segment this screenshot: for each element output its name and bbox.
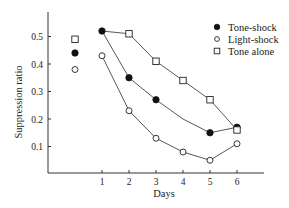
data-point-tone-alone	[234, 127, 240, 133]
open-circle-icon	[215, 37, 220, 42]
legend-label: Tone-shock	[228, 22, 278, 33]
axes: 0.10.20.30.40.5123456DaysSuppression rat…	[13, 12, 264, 199]
y-tick-label: 0.1	[31, 142, 43, 152]
baseline-point-tone-shock	[72, 50, 78, 56]
legend-label: Tone alone	[228, 46, 275, 57]
x-tick-label: 4	[181, 177, 186, 187]
open-square-icon	[214, 48, 220, 54]
series-line-tone-shock	[102, 31, 237, 133]
data-point-light-shock	[207, 157, 213, 163]
x-tick-label: 5	[208, 177, 213, 187]
data-point-tone-alone	[207, 97, 213, 103]
y-axis-title: Suppression ratio	[13, 65, 24, 138]
data-point-light-shock	[153, 135, 159, 141]
data-point-light-shock	[180, 149, 186, 155]
data-point-tone-shock	[126, 75, 132, 81]
x-axis-title: Days	[153, 188, 175, 199]
y-tick-label: 0.2	[31, 115, 43, 125]
x-tick-label: 1	[100, 177, 105, 187]
data-point-tone-alone	[180, 77, 186, 83]
data-point-light-shock	[99, 53, 105, 59]
x-tick-label: 6	[235, 177, 240, 187]
y-tick-label: 0.5	[31, 32, 43, 42]
baseline-point-light-shock	[72, 67, 78, 73]
filled-circle-icon	[214, 24, 220, 30]
suppression-ratio-chart: 0.10.20.30.40.5123456DaysSuppression rat…	[0, 0, 289, 208]
data-point-tone-alone	[153, 58, 159, 64]
y-tick-label: 0.3	[31, 87, 43, 97]
series-line-tone-alone	[102, 31, 237, 130]
data-point-tone-shock	[99, 28, 105, 34]
legend: Tone-shockLight-shockTone alone	[214, 22, 279, 57]
data-point-light-shock	[234, 141, 240, 147]
legend-label: Light-shock	[228, 34, 279, 45]
data-point-tone-alone	[126, 31, 132, 37]
data-point-tone-shock	[153, 97, 159, 103]
data-point-tone-shock	[207, 130, 213, 136]
y-tick-label: 0.4	[31, 60, 43, 70]
x-tick-label: 2	[127, 177, 132, 187]
baseline-point-tone-alone	[72, 36, 78, 42]
x-tick-label: 3	[154, 177, 159, 187]
data-point-light-shock	[126, 108, 132, 114]
